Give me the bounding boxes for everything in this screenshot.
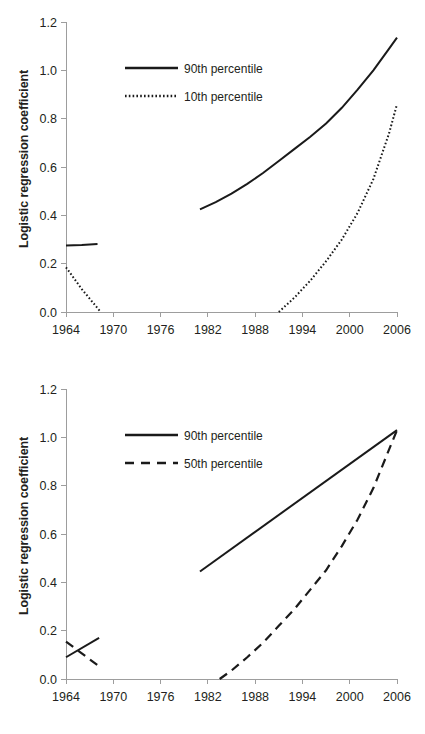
y-tick-label: 1.2 [40, 16, 57, 30]
y-tick-label: 1.2 [40, 383, 57, 397]
legend-label: 50th percentile [184, 457, 263, 471]
y-tick-label: 0.6 [40, 528, 57, 542]
y-tick-label: 1.0 [40, 431, 57, 445]
y-tick-label: 0.4 [40, 209, 57, 223]
y-tick-label: 0.8 [40, 479, 57, 493]
y-tick-label: 0.0 [40, 673, 57, 687]
x-tick-label: 2000 [336, 323, 364, 337]
chart-svg-top: 0.00.20.40.60.81.01.21964197019761982198… [0, 0, 425, 367]
x-tick-label: 1970 [99, 323, 127, 337]
y-tick-label: 0.2 [40, 624, 57, 638]
x-tick-label: 1964 [52, 323, 80, 337]
series-path [66, 244, 98, 245]
x-tick-label: 1964 [52, 690, 80, 704]
x-tick-label: 1970 [99, 690, 127, 704]
x-tick-label: 1976 [147, 323, 175, 337]
x-tick-label: 1982 [194, 690, 222, 704]
legend-label: 10th percentile [184, 90, 263, 104]
x-tick-label: 2006 [383, 690, 411, 704]
y-tick-label: 0.2 [40, 257, 57, 271]
x-tick-label: 1988 [241, 690, 269, 704]
chart-panel-bottom: Logistic regression coefficient 0.00.20.… [0, 367, 425, 734]
x-tick-label: 2000 [336, 690, 364, 704]
series-path [66, 267, 101, 312]
x-tick-label: 1982 [194, 323, 222, 337]
chart-panel-top: Logistic regression coefficient 0.00.20.… [0, 0, 425, 367]
legend-label: 90th percentile [184, 429, 263, 443]
y-tick-label: 1.0 [40, 64, 57, 78]
x-tick-label: 1988 [241, 323, 269, 337]
figure-page: Logistic regression coefficient 0.00.20.… [0, 0, 425, 734]
y-tick-label: 0.4 [40, 576, 57, 590]
y-tick-label: 0.6 [40, 161, 57, 175]
x-tick-label: 1994 [289, 690, 317, 704]
x-tick-label: 1994 [289, 323, 317, 337]
series-path [279, 104, 397, 312]
y-tick-label: 0.8 [40, 112, 57, 126]
legend-label: 90th percentile [184, 62, 263, 76]
y-tick-label: 0.0 [40, 306, 57, 320]
x-tick-label: 2006 [383, 323, 411, 337]
chart-svg-bottom: 0.00.20.40.60.81.01.21964197019761982198… [0, 367, 425, 734]
x-tick-label: 1976 [147, 690, 175, 704]
